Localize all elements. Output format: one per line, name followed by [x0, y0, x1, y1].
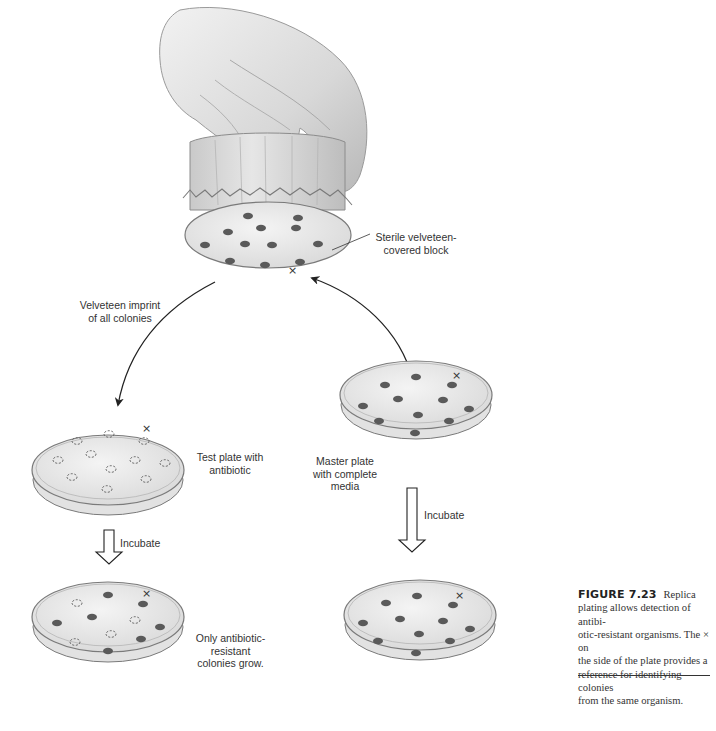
caption-line-4: reference for identifying colonies [578, 669, 682, 693]
velveteen-block: × [183, 133, 370, 277]
x-marker-test-incubated: × [142, 587, 151, 600]
master-plate-incubated: × [344, 580, 496, 660]
incubate-arrow-right [399, 488, 425, 552]
label-velveteen-imprint: Velveteen imprint of all colonies [70, 299, 170, 324]
label-velveteen-block: Sterile velveteen- covered block [366, 231, 466, 256]
master-plate: × [340, 361, 492, 439]
caption-rule [578, 675, 710, 676]
label-test-plate: Test plate with antibiotic [190, 451, 270, 476]
label-incubate-left: Incubate [120, 537, 160, 550]
label-master-plate: Master plate with complete media [305, 455, 385, 493]
caption-line-5: from the same organism. [578, 695, 683, 706]
label-incubate-right: Incubate [424, 509, 464, 522]
x-marker-test: × [142, 422, 151, 435]
test-plate: × [32, 422, 184, 515]
incubate-arrow-left [96, 530, 122, 564]
caption-line-1: plating allows detection of antibi- [578, 602, 691, 626]
test-plate-incubated: × [32, 582, 184, 662]
caption-line-3: the side of the plate provides a [578, 655, 707, 666]
figure-caption: FIGURE 7.23 Replica plating allows detec… [578, 588, 713, 708]
caption-line-2: otic-resistant organisms. The × on [578, 629, 709, 653]
figure-title: Replica [663, 589, 695, 600]
x-marker-master-incubated: × [455, 589, 464, 602]
label-resistant-colonies: Only antibiotic- resistant colonies grow… [188, 632, 273, 670]
x-marker-master: × [452, 369, 461, 382]
x-marker-block: × [288, 264, 297, 277]
figure-number: FIGURE 7.23 [578, 588, 657, 601]
